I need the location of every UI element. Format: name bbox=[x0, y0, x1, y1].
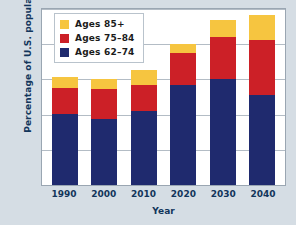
x-axis-tick-label: 2030 bbox=[210, 189, 236, 199]
bar-segment bbox=[52, 88, 78, 114]
legend-swatch-ages-75-84 bbox=[60, 34, 69, 43]
bar-segment bbox=[91, 79, 117, 90]
x-axis-tick-label: 2040 bbox=[250, 189, 276, 199]
bar-1990 bbox=[52, 77, 78, 185]
bar-segment bbox=[91, 89, 117, 119]
legend-label: Ages 85+ bbox=[75, 19, 125, 29]
bar-2000 bbox=[91, 79, 117, 185]
x-axis-tick-label: 2010 bbox=[131, 189, 157, 199]
bar-segment bbox=[170, 44, 196, 54]
bar-segment bbox=[52, 114, 78, 185]
bar-2010 bbox=[131, 70, 157, 185]
bar-segment bbox=[131, 111, 157, 185]
x-axis-tick-labels: 199020002010202020302040 bbox=[41, 189, 286, 203]
legend-item: Ages 85+ bbox=[60, 17, 135, 31]
y-axis-title: Percentage of U.S. population bbox=[23, 0, 33, 140]
bar-segment bbox=[131, 85, 157, 111]
legend-swatch-ages-62-74 bbox=[60, 48, 69, 57]
bar-2030 bbox=[210, 20, 236, 185]
bar-segment bbox=[210, 20, 236, 37]
gridline bbox=[42, 185, 285, 186]
legend-item: Ages 75–84 bbox=[60, 31, 135, 45]
bar-segment bbox=[249, 95, 275, 185]
bar-segment bbox=[52, 77, 78, 88]
bar-segment bbox=[210, 37, 236, 79]
x-axis-tick-label: 1990 bbox=[51, 189, 77, 199]
bar-segment bbox=[91, 119, 117, 185]
x-axis-tick-label: 2000 bbox=[91, 189, 117, 199]
x-axis-tick-label: 2020 bbox=[170, 189, 196, 199]
legend-label: Ages 62–74 bbox=[75, 47, 135, 57]
legend-label: Ages 75–84 bbox=[75, 33, 135, 43]
bar-segment bbox=[249, 40, 275, 95]
bar-segment bbox=[249, 15, 275, 40]
legend-swatch-ages-85-plus bbox=[60, 20, 69, 29]
x-axis-title: Year bbox=[41, 206, 286, 216]
stacked-bar-chart: Percentage of U.S. population 0510152025… bbox=[0, 0, 296, 225]
bar-segment bbox=[131, 70, 157, 85]
bar-2040 bbox=[249, 15, 275, 185]
legend-item: Ages 62–74 bbox=[60, 45, 135, 59]
bar-2020 bbox=[170, 44, 196, 185]
chart-legend: Ages 85+ Ages 75–84 Ages 62–74 bbox=[54, 13, 144, 63]
bar-segment bbox=[170, 85, 196, 185]
bar-segment bbox=[170, 53, 196, 85]
bar-segment bbox=[210, 79, 236, 185]
